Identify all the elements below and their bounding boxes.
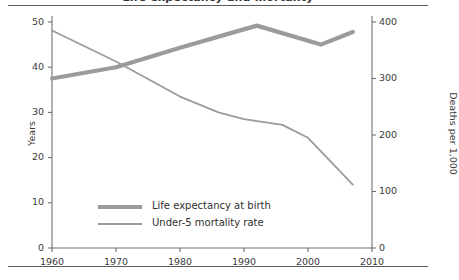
y-tick-right-100: 100 xyxy=(379,185,413,196)
data-series xyxy=(52,26,353,185)
legend-label-0: Life expectancy at birth xyxy=(152,200,271,211)
legend-swatches xyxy=(98,207,142,224)
y-tick-right-300: 300 xyxy=(379,72,413,83)
y-tick-right-400: 400 xyxy=(379,16,413,27)
legend-label-1: Under-5 mortality rate xyxy=(152,217,264,228)
y-axis-title-right: Deaths per 1,000 xyxy=(448,89,459,179)
y-axis-title-left: Years xyxy=(26,109,37,159)
y-tick-left-40: 40 xyxy=(14,61,44,72)
y-tick-right-0: 0 xyxy=(379,242,413,253)
y-tick-left-0: 0 xyxy=(14,242,44,253)
series-line-1 xyxy=(52,30,353,184)
bottom-rule xyxy=(8,266,428,267)
y-tick-right-200: 200 xyxy=(379,129,413,140)
y-tick-left-10: 10 xyxy=(14,196,44,207)
y-tick-left-50: 50 xyxy=(14,16,44,27)
